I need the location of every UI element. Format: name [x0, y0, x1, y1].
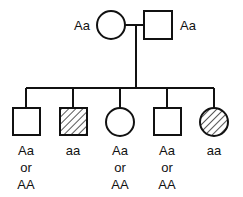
genotype-line: aa: [58, 142, 88, 159]
genotype-line: AA: [105, 176, 135, 193]
genotype-line: AA: [152, 176, 182, 193]
genotype-line: AA: [11, 176, 41, 193]
mother-genotype: Aa: [70, 17, 94, 34]
genotype-line: or: [11, 159, 41, 176]
genotype-line: or: [105, 159, 135, 176]
mother-symbol: [97, 11, 125, 39]
genotype-line: or: [152, 159, 182, 176]
child-4-genotype: Aa or AA: [152, 142, 182, 193]
child-5-symbol: [200, 108, 228, 136]
child-3-symbol: [106, 108, 134, 136]
genotype-line: Aa: [152, 142, 182, 159]
child-2-symbol: [60, 108, 87, 135]
child-4-symbol: [154, 108, 181, 135]
child-1-genotype: Aa or AA: [11, 142, 41, 193]
child-5-genotype: aa: [199, 142, 229, 159]
child-2-genotype: aa: [58, 142, 88, 159]
child-3-genotype: Aa or AA: [105, 142, 135, 193]
father-genotype: Aa: [176, 17, 200, 34]
child-1-symbol: [13, 108, 40, 135]
father-symbol: [144, 11, 172, 39]
genotype-line: Aa: [105, 142, 135, 159]
genotype-line: Aa: [11, 142, 41, 159]
genotype-line: aa: [199, 142, 229, 159]
